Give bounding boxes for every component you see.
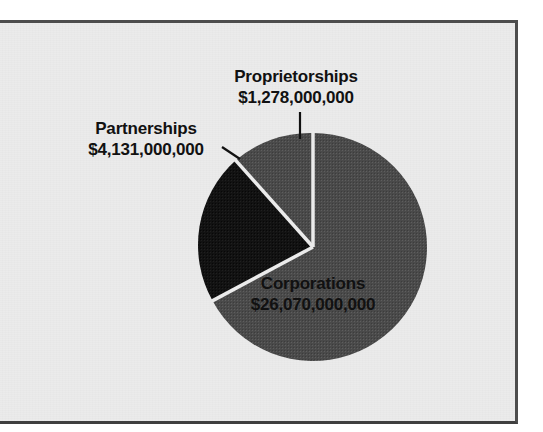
slice-label-partnerships-value: $4,131,000,000 [56,139,236,160]
slice-label-partnerships-name: Partnerships [56,118,236,139]
slice-label-corporations-name: Corporations [213,273,413,294]
slice-label-proprietorships: Proprietorships $1,278,000,000 [196,66,396,109]
slice-label-corporations-value: $26,070,000,000 [213,294,413,315]
slice-label-proprietorships-name: Proprietorships [196,66,396,87]
slice-label-corporations: Corporations $26,070,000,000 [213,273,413,316]
pie-chart: Proprietorships $1,278,000,000 Partnersh… [0,0,543,432]
slice-label-partnerships: Partnerships $4,131,000,000 [56,118,236,161]
figure-page: Proprietorships $1,278,000,000 Partnersh… [0,0,543,432]
pie-chart-svg [0,0,543,432]
slice-label-proprietorships-value: $1,278,000,000 [196,87,396,108]
